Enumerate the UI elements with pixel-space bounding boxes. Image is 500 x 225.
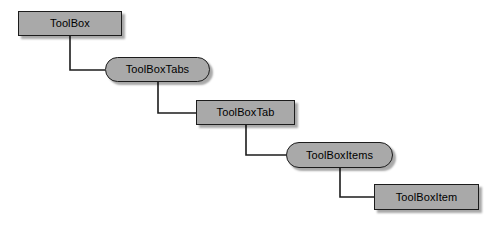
node-toolboxitems-label: ToolBoxItems <box>306 150 373 161</box>
connector-toolbox-to-toolboxtabs <box>70 36 105 70</box>
connector-toolboxitems-to-toolboxitem <box>340 168 374 197</box>
node-toolboxtab[interactable]: ToolBoxTab <box>196 100 295 125</box>
node-toolbox[interactable]: ToolBox <box>18 11 122 36</box>
diagram-canvas: ToolBox ToolBoxTabs ToolBoxTab ToolBoxIt… <box>0 0 500 225</box>
connector-toolboxtabs-to-toolboxtab <box>158 82 196 113</box>
node-toolboxtabs-label: ToolBoxTabs <box>126 64 189 75</box>
node-toolboxitem-label: ToolBoxItem <box>396 192 458 203</box>
node-toolboxtab-label: ToolBoxTab <box>217 107 275 118</box>
node-toolboxtabs[interactable]: ToolBoxTabs <box>105 57 210 82</box>
node-toolbox-label: ToolBox <box>50 18 90 29</box>
node-toolboxitems[interactable]: ToolBoxItems <box>286 142 393 168</box>
connector-toolboxtab-to-toolboxitems <box>246 125 286 155</box>
node-toolboxitem[interactable]: ToolBoxItem <box>374 184 479 210</box>
